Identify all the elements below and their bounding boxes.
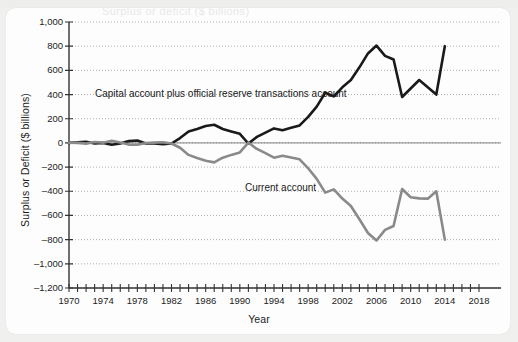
y-tick-label: 400 <box>17 89 63 100</box>
figure-top-strip <box>0 0 518 8</box>
y-tick-label: 200 <box>17 113 63 124</box>
series-label-capital-account: Capital account plus official reserve tr… <box>95 88 347 99</box>
y-tick-label: 600 <box>17 64 63 75</box>
y-tick-label: –600 <box>17 209 63 220</box>
series-label-current-account: Current account <box>245 182 316 193</box>
chart-card: Surplus or deficit ($ billions) Surplus … <box>6 8 510 334</box>
y-tick-label: 0 <box>17 137 63 148</box>
x-axis-title: Year <box>0 313 518 325</box>
chart-figure: Surplus or deficit ($ billions) Surplus … <box>0 0 518 342</box>
y-axis <box>65 22 73 288</box>
y-tick-label: 1,000 <box>17 16 63 27</box>
y-tick-label: –1,000 <box>17 258 63 269</box>
y-tick-label: –1,200 <box>17 282 63 293</box>
plot-area <box>6 8 510 334</box>
y-tick-label: –400 <box>17 185 63 196</box>
x-tick-label: 2018 <box>459 295 499 306</box>
y-tick-label: 800 <box>17 40 63 51</box>
y-tick-label: –800 <box>17 234 63 245</box>
y-tick-label: –200 <box>17 161 63 172</box>
x-axis <box>69 284 501 292</box>
